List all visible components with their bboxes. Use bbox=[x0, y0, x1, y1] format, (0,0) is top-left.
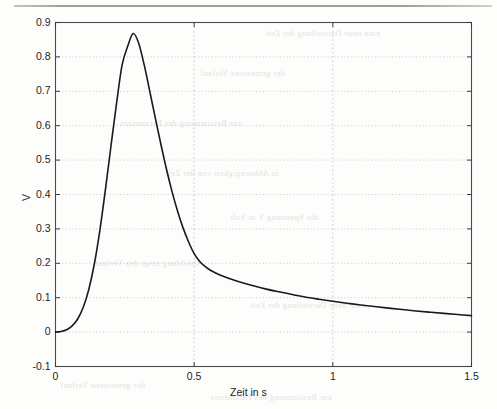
chart-plot bbox=[0, 0, 497, 409]
y-tick-label: 0.6 bbox=[11, 119, 51, 131]
x-tick-label: 0 bbox=[36, 370, 76, 382]
scanned-page: eine neue Darstellung der Zeitder gemess… bbox=[0, 0, 497, 409]
x-tick-label: 0.5 bbox=[174, 370, 214, 382]
y-tick-label: 0 bbox=[11, 325, 51, 337]
x-tick-label: 1.5 bbox=[452, 370, 492, 382]
y-tick-label: 0.8 bbox=[11, 50, 51, 62]
data-series-line bbox=[56, 33, 472, 332]
y-tick-label: 0.2 bbox=[11, 256, 51, 268]
x-axis-title: Zeit in s bbox=[0, 386, 497, 398]
y-tick-label: 0.7 bbox=[11, 84, 51, 96]
y-axis-title: V bbox=[20, 193, 32, 200]
y-tick-label: 0.9 bbox=[11, 16, 51, 28]
y-tick-label: 0.1 bbox=[11, 291, 51, 303]
x-tick-label: 1 bbox=[313, 370, 353, 382]
y-tick-label: 0.5 bbox=[11, 153, 51, 165]
y-tick-label: 0.3 bbox=[11, 222, 51, 234]
